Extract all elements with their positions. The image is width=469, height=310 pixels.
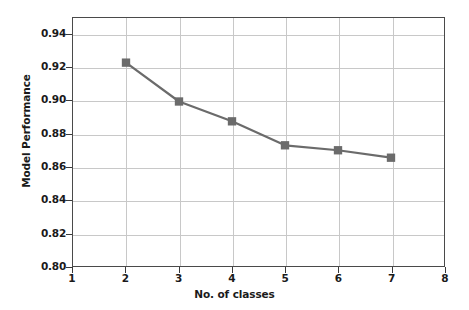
series-line xyxy=(126,63,391,158)
y-tick-mark xyxy=(66,67,72,68)
plot-area xyxy=(72,17,445,267)
y-tick-mark xyxy=(66,167,72,168)
y-tick-label: 0.90 xyxy=(41,93,66,105)
y-tick-mark xyxy=(66,34,72,35)
x-tick-label: 4 xyxy=(228,272,235,284)
y-axis-title: Model Performance xyxy=(20,41,32,221)
x-tick-label: 1 xyxy=(68,272,75,284)
y-tick-mark xyxy=(66,234,72,235)
x-tick-label: 6 xyxy=(335,272,342,284)
y-tick-label: 0.88 xyxy=(41,127,66,139)
x-tick-label: 2 xyxy=(122,272,129,284)
y-tick-mark xyxy=(66,100,72,101)
y-tick-label: 0.82 xyxy=(41,227,66,239)
x-tick-label: 5 xyxy=(281,272,288,284)
data-point-marker xyxy=(334,146,342,154)
data-point-marker xyxy=(387,154,395,162)
y-tick-label: 0.80 xyxy=(41,260,66,272)
x-tick-label: 3 xyxy=(175,272,182,284)
data-series-model-performance xyxy=(73,18,444,266)
data-point-marker xyxy=(281,141,289,149)
y-tick-mark xyxy=(66,134,72,135)
y-tick-label: 0.86 xyxy=(41,160,66,172)
y-tick-label: 0.84 xyxy=(41,193,66,205)
data-point-marker xyxy=(228,117,236,125)
y-tick-mark xyxy=(66,200,72,201)
data-point-marker xyxy=(175,97,183,105)
data-point-marker xyxy=(122,58,130,66)
y-tick-label: 0.92 xyxy=(41,60,66,72)
x-axis-title: No. of classes xyxy=(0,288,469,300)
x-tick-label: 8 xyxy=(441,272,448,284)
series-markers xyxy=(122,58,395,161)
y-tick-label: 0.94 xyxy=(41,27,66,39)
x-tick-label: 7 xyxy=(388,272,395,284)
line-chart: 0.800.820.840.860.880.900.920.94 1234567… xyxy=(0,0,469,310)
